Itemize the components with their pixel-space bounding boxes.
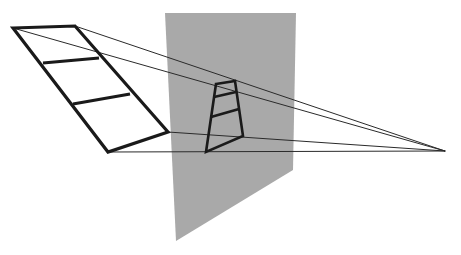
perspective-diagram — [0, 0, 461, 255]
object-frame-rung-1 — [43, 58, 99, 63]
object-frame-rung-2 — [73, 94, 130, 104]
picture-plane — [165, 13, 296, 241]
object-frame-outline — [13, 26, 168, 152]
viewpoint-marker — [444, 150, 446, 152]
projection-ray-bottom-left — [108, 151, 445, 152]
diagram-canvas — [0, 0, 461, 255]
object-frame — [13, 26, 168, 152]
